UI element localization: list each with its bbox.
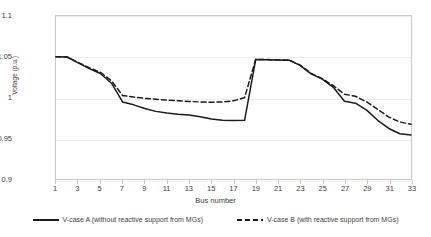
- x-tick-label: 23: [288, 185, 312, 193]
- x-tick-label: 7: [110, 185, 134, 193]
- x-tick-label: 33: [400, 185, 424, 193]
- series-line-case-a: [56, 57, 411, 135]
- x-tick-label: 25: [311, 185, 335, 193]
- plot-area: [55, 15, 412, 180]
- legend-label: V-case B (with reactive support from MGs…: [267, 216, 398, 223]
- x-tick-label: 27: [333, 185, 357, 193]
- chart-svg: [56, 16, 411, 179]
- legend-entry-case-a: V-case A (without reactive support from …: [33, 216, 203, 223]
- x-axis-title: Bus number: [0, 196, 431, 205]
- x-tick-label: 31: [378, 185, 402, 193]
- legend-dashed-line-icon: [237, 216, 263, 223]
- x-tick-label: 15: [199, 185, 223, 193]
- x-tick-label: 11: [155, 185, 179, 193]
- x-tick-label: 1: [43, 185, 67, 193]
- y-axis-title: Voltage (p.u.): [11, 36, 18, 116]
- legend-entry-case-b: V-case B (with reactive support from MGs…: [237, 216, 398, 223]
- y-tick-label: 0.9: [0, 176, 12, 184]
- x-tick-label: 13: [177, 185, 201, 193]
- chart-legend: V-case A (without reactive support from …: [0, 216, 431, 223]
- y-tick-label: 1.1: [0, 12, 12, 20]
- y-tick-label: 0.95: [0, 135, 12, 143]
- x-tick-label: 9: [132, 185, 156, 193]
- x-tick-label: 21: [266, 185, 290, 193]
- legend-solid-line-icon: [33, 216, 59, 223]
- chart-figure: 1.1 1.05 1 0.95 0.9 Voltage (p.u.) 13579…: [0, 0, 431, 237]
- x-tick-label: 3: [65, 185, 89, 193]
- x-tick-label: 19: [244, 185, 268, 193]
- series-line-case-b: [56, 57, 411, 124]
- legend-label: V-case A (without reactive support from …: [63, 216, 203, 223]
- x-tick-label: 5: [88, 185, 112, 193]
- x-tick-label: 17: [222, 185, 246, 193]
- x-tick-label: 29: [355, 185, 379, 193]
